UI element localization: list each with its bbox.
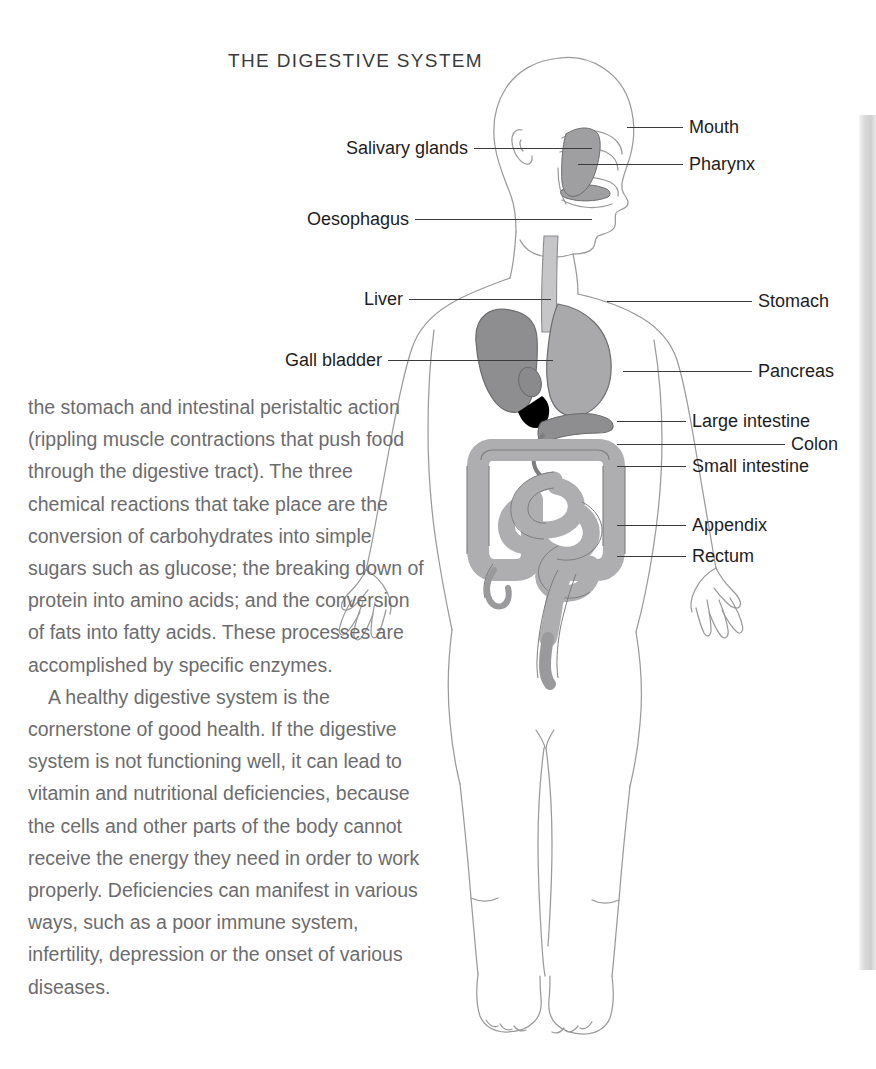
paragraph-healthy-system: A healthy digestive system is the corner…: [28, 681, 428, 1003]
right-hand: [691, 568, 743, 638]
leader-gall-bladder: [388, 360, 553, 361]
page: THE DIGESTIVE SYSTEM: [0, 0, 876, 1069]
label-salivary-glands: Salivary glands: [346, 138, 468, 159]
label-mouth: Mouth: [689, 117, 739, 138]
body-copy: the stomach and intestinal peristaltic a…: [28, 391, 428, 1003]
paragraph-continued: the stomach and intestinal peristaltic a…: [28, 391, 428, 681]
label-oesophagus: Oesophagus: [307, 209, 409, 230]
label-small-intestine: Small intestine: [692, 456, 809, 477]
label-stomach: Stomach: [758, 291, 829, 312]
leader-large-intestine: [617, 421, 686, 422]
leader-appendix: [617, 525, 686, 526]
label-rectum: Rectum: [692, 546, 754, 567]
pancreas-shape: [538, 413, 613, 441]
legs: [460, 730, 630, 1034]
leader-small-intestine: [617, 466, 686, 467]
rectum-shape: [545, 638, 550, 684]
leader-pharynx: [578, 164, 683, 165]
leader-oesophagus: [415, 219, 592, 220]
leader-stomach: [607, 301, 752, 302]
page-edge-strip: [859, 115, 876, 970]
label-large-intestine: Large intestine: [692, 411, 810, 432]
leader-colon: [617, 444, 785, 445]
leader-mouth: [627, 127, 683, 128]
label-pharynx: Pharynx: [689, 154, 755, 175]
label-liver: Liver: [364, 289, 403, 310]
leader-salivary-glands: [474, 148, 592, 149]
leader-liver: [409, 299, 551, 300]
label-appendix: Appendix: [692, 515, 767, 536]
label-colon: Colon: [791, 434, 838, 455]
label-pancreas: Pancreas: [758, 361, 834, 382]
leader-pancreas: [623, 371, 752, 372]
label-gall-bladder: Gall bladder: [285, 350, 382, 371]
leader-rectum: [617, 556, 686, 557]
stomach-shape: [547, 304, 611, 416]
